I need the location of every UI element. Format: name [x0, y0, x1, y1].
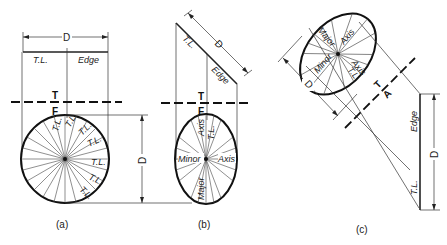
svg-text:Edge: Edge [409, 111, 419, 132]
svg-text:D: D [137, 157, 148, 164]
svg-text:Edge: Edge [210, 64, 232, 86]
svg-text:T.L.: T.L. [87, 172, 105, 187]
arrow-icon [23, 35, 29, 39]
arrow-icon [140, 115, 144, 121]
major-label-b: Major [196, 176, 206, 200]
svg-text:T: T [198, 91, 204, 102]
svg-text:T.L.: T.L. [63, 111, 79, 129]
arrow-icon [140, 197, 144, 203]
svg-text:T: T [372, 78, 384, 90]
descriptive-geometry-figure: D T.L. Edge T F T.L. T [0, 0, 447, 245]
svg-text:T.L.: T.L. [50, 116, 63, 133]
caption-a: (a) [56, 219, 68, 230]
caption-c: (c) [356, 224, 368, 235]
center-point [63, 157, 67, 161]
panel-b: D T.L. Edge T F Minor Axis Axis T [161, 10, 252, 230]
svg-text:T.L.: T.L. [409, 180, 419, 195]
arrow-icon [432, 204, 436, 210]
arrow-icon [432, 94, 436, 100]
panel-a: D T.L. Edge T F T.L. T [11, 31, 192, 230]
svg-text:Axis: Axis [337, 26, 357, 47]
svg-text:T.L.: T.L. [78, 184, 95, 201]
panel-c: Major Axis Minor Axis T.L. D T A Edge T.… [278, 0, 440, 235]
dimension-label-d: D [63, 32, 70, 43]
edge-label-a: Edge [78, 55, 99, 65]
arrow-icon [102, 35, 108, 39]
tl-label-a: T.L. [33, 55, 48, 65]
svg-text:T.L.: T.L. [181, 33, 198, 50]
caption-b: (b) [198, 219, 210, 230]
svg-text:A: A [381, 88, 394, 101]
minor-label-b: Minor [178, 154, 202, 164]
svg-text:T.L.: T.L. [91, 157, 106, 167]
svg-text:Axis: Axis [217, 154, 236, 164]
svg-text:T.L.: T.L. [206, 125, 216, 140]
svg-text:D: D [429, 151, 440, 158]
fold-label-t: T [52, 90, 58, 101]
svg-text:Axis: Axis [196, 118, 206, 137]
